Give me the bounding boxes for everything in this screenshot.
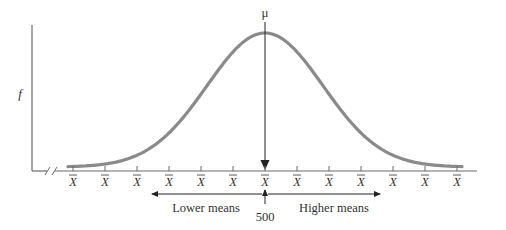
y-axis-label: f (18, 86, 24, 101)
x-bar-tick-label: X (452, 175, 462, 189)
x-bar-tick-label: X (100, 175, 110, 189)
x-bar-tick-label: X (196, 175, 206, 189)
x-bar-tick-label: X (420, 175, 430, 189)
sampling-distribution-diagram: μ f XXXXXXXXXXXXX Lower means Higher mea… (0, 0, 506, 230)
x-bar-tick-label: X (292, 175, 302, 189)
diagram-canvas: μ f XXXXXXXXXXXXX Lower means Higher mea… (0, 0, 506, 230)
x-bar-tick-label: X (324, 175, 334, 189)
higher-means-label: Higher means (299, 201, 369, 215)
x-bar-tick-label: X (388, 175, 398, 189)
x-bar-tick-label: X (132, 175, 142, 189)
mu-label: μ (262, 5, 269, 20)
x-bar-tick-label: X (356, 175, 366, 189)
x-tick-group: XXXXXXXXXXXXX (68, 166, 462, 189)
lower-means-label: Lower means (172, 201, 240, 215)
x-bar-tick-label: X (228, 175, 238, 189)
center-value-label: 500 (256, 210, 275, 224)
x-bar-tick-label: X (260, 175, 270, 189)
x-bar-tick-label: X (68, 175, 78, 189)
x-bar-tick-label: X (164, 175, 174, 189)
